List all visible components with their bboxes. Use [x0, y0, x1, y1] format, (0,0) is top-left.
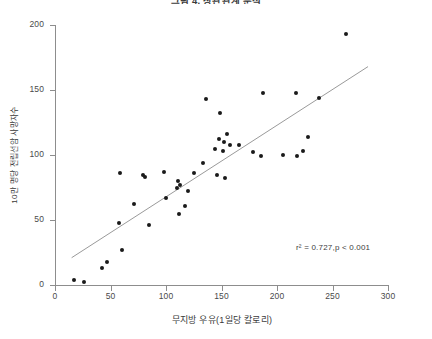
x-axis-tick-label: 300: [368, 291, 408, 301]
data-point: [237, 143, 241, 147]
data-point: [294, 91, 298, 95]
data-point: [105, 260, 109, 264]
x-axis-tick-label: 100: [146, 291, 186, 301]
y-axis-tick-label: 100: [10, 149, 44, 159]
data-point: [222, 140, 226, 144]
data-point: [120, 248, 124, 252]
data-point: [281, 153, 285, 157]
data-point: [221, 149, 225, 153]
y-axis-tick-label: 150: [10, 84, 44, 94]
data-point: [143, 175, 147, 179]
chart-title: 그림 4. 상관관계 분석: [0, 0, 432, 4]
data-point: [183, 204, 187, 208]
data-point: [215, 173, 219, 177]
data-point: [164, 196, 168, 200]
x-axis-tick-label: 50: [91, 291, 131, 301]
data-point: [344, 32, 348, 36]
data-point: [162, 170, 166, 174]
data-point: [301, 149, 305, 153]
x-axis-tick-label: 200: [257, 291, 297, 301]
data-point: [201, 161, 205, 165]
data-point: [213, 147, 217, 151]
data-point: [306, 135, 310, 139]
y-axis-tick-label: 200: [10, 19, 44, 29]
data-point: [317, 96, 321, 100]
data-point: [261, 91, 265, 95]
scatter-plot-figure: 그림 4. 상관관계 분석 10만 명당 전립선암 사망자수 무지방 우유(1일…: [0, 0, 432, 339]
x-axis-tick-label: 0: [35, 291, 75, 301]
data-point: [192, 171, 196, 175]
x-axis-tick-label: 250: [313, 291, 353, 301]
data-point: [72, 278, 76, 282]
x-axis-title: 무지방 우유(1일당 칼로리): [55, 313, 389, 326]
x-axis-tick-label: 150: [202, 291, 242, 301]
data-point: [100, 266, 104, 270]
data-point: [177, 212, 181, 216]
y-axis-tick-label: 0: [10, 279, 44, 289]
y-axis-tick-label: 50: [10, 214, 44, 224]
statistics-annotation: r² = 0.727,p < 0.001: [296, 243, 370, 252]
